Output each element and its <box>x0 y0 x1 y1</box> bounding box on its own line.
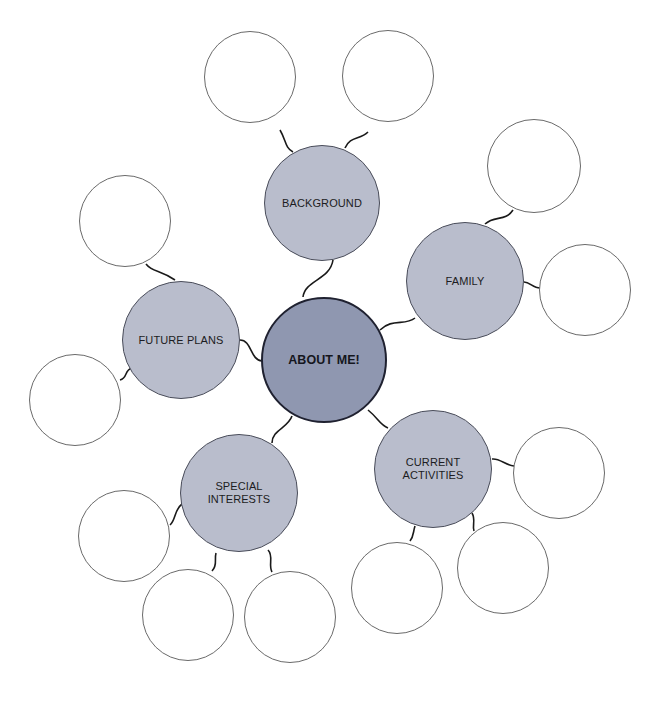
connector-background-blank-2 <box>345 132 368 148</box>
topic-bubble-future-plans: FUTURE PLANS <box>122 281 240 399</box>
current-activities-blank-bubble-3[interactable] <box>351 542 443 634</box>
future-plans-blank-bubble-2[interactable] <box>29 354 121 446</box>
center-bubble: ABOUT ME! <box>261 297 387 423</box>
connector-current-activities-blank-1 <box>492 459 514 466</box>
current-activities-blank-bubble-2[interactable] <box>457 522 549 614</box>
special-interests-blank-bubble-1[interactable] <box>78 490 170 582</box>
topic-bubble-special-interests: SPECIAL INTERESTS <box>180 434 298 552</box>
connector-center-family <box>380 318 415 330</box>
connector-special-interests-blank-3 <box>268 550 272 572</box>
topic-bubble-special-interests-label: SPECIAL INTERESTS <box>208 480 271 506</box>
connector-center-future-plans <box>240 340 262 361</box>
connector-current-activities-blank-3 <box>410 526 415 541</box>
topic-bubble-background: BACKGROUND <box>264 145 380 261</box>
connector-family-blank-2 <box>524 282 540 288</box>
connector-family-blank-1 <box>485 210 513 224</box>
connector-current-activities-blank-2 <box>472 513 474 531</box>
current-activities-blank-bubble-1[interactable] <box>513 427 605 519</box>
topic-bubble-future-plans-label: FUTURE PLANS <box>139 334 224 347</box>
special-interests-blank-bubble-2[interactable] <box>142 569 234 661</box>
topic-bubble-family: FAMILY <box>406 222 524 340</box>
connector-special-interests-blank-2 <box>212 553 216 571</box>
topic-bubble-current-activities: CURRENT ACTIVITIES <box>374 410 492 528</box>
center-bubble-label: ABOUT ME! <box>288 354 360 367</box>
connector-future-plans-blank-1 <box>146 264 175 280</box>
future-plans-blank-bubble-1[interactable] <box>79 175 171 267</box>
topic-bubble-family-label: FAMILY <box>446 275 485 288</box>
connector-center-current-activities <box>368 410 388 428</box>
connector-center-special-interests <box>272 416 292 443</box>
special-interests-blank-bubble-3[interactable] <box>244 571 336 663</box>
topic-bubble-current-activities-label: CURRENT ACTIVITIES <box>403 456 464 482</box>
connector-center-background <box>303 260 333 297</box>
topic-bubble-background-label: BACKGROUND <box>282 197 362 210</box>
background-blank-bubble-2[interactable] <box>342 30 434 122</box>
family-blank-bubble-2[interactable] <box>539 244 631 336</box>
connector-special-interests-blank-1 <box>170 504 182 525</box>
family-blank-bubble-1[interactable] <box>487 119 581 213</box>
connector-background-blank-1 <box>280 130 293 152</box>
background-blank-bubble-1[interactable] <box>204 31 296 123</box>
bubble-map-diagram: BACKGROUNDFAMILYFUTURE PLANSSPECIAL INTE… <box>0 0 662 705</box>
